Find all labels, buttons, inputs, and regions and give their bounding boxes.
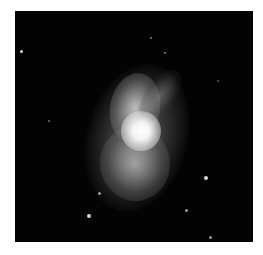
star xyxy=(150,37,152,39)
star xyxy=(87,214,91,218)
nebula-image xyxy=(15,11,253,242)
nebula-core xyxy=(121,111,161,151)
star xyxy=(185,209,188,212)
star xyxy=(204,176,208,180)
star xyxy=(217,80,219,82)
star xyxy=(20,50,23,53)
star xyxy=(209,236,212,239)
star xyxy=(164,52,166,54)
star xyxy=(98,192,101,195)
star xyxy=(48,120,50,122)
